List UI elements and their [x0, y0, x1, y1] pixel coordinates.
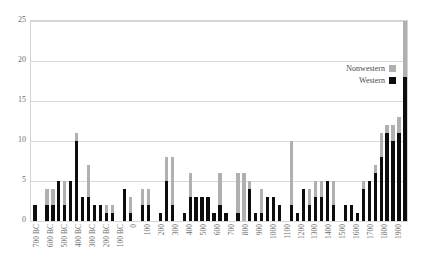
- bar: [93, 205, 96, 221]
- bar-segment-western: [99, 205, 102, 221]
- y-axis-tick-label: 0: [22, 216, 26, 224]
- bar-segment-nonwestern: [314, 181, 317, 197]
- legend-label: Nonwestern: [346, 64, 385, 73]
- bar-segment-western: [171, 205, 174, 221]
- legend-entry: Nonwestern: [346, 64, 396, 73]
- bar-segment-western: [272, 197, 275, 221]
- bar: [314, 181, 317, 221]
- legend-entry: Western: [359, 76, 396, 85]
- bar-segment-nonwestern: [165, 157, 168, 181]
- y-axis-tick-label: 10: [18, 136, 26, 144]
- bar-segment-western: [200, 197, 203, 221]
- bar: [111, 205, 114, 221]
- x-axis-tick-label: 1700: [367, 224, 375, 239]
- x-axis-tick-label: 200 BC: [103, 224, 111, 247]
- bar-segment-nonwestern: [51, 189, 54, 205]
- bar-segment-nonwestern: [391, 125, 394, 141]
- x-axis-tick-label: 100: [144, 224, 152, 235]
- bar: [45, 189, 48, 221]
- bar-segment-western: [224, 213, 227, 221]
- bar-segment-western: [248, 189, 251, 221]
- x-axis-tick-label: 1500: [339, 224, 347, 239]
- bar-segment-western: [326, 181, 329, 221]
- bar: [242, 173, 245, 221]
- bar-segment-western: [308, 205, 311, 221]
- bar: [57, 181, 60, 221]
- bar: [189, 173, 192, 221]
- bar: [254, 213, 257, 221]
- bar-segment-nonwestern: [385, 125, 388, 133]
- x-axis-tick-label: 500: [200, 224, 208, 235]
- bar: [320, 181, 323, 221]
- x-axis-tick-label: 600: [214, 224, 222, 235]
- bar: [272, 197, 275, 221]
- bar: [266, 197, 269, 221]
- bar: [374, 165, 377, 221]
- bar-segment-nonwestern: [248, 181, 251, 189]
- x-axis-tick-label: 100 BC: [117, 224, 125, 247]
- bar-segment-western: [212, 213, 215, 221]
- bar-segment-western: [105, 213, 108, 221]
- bar: [123, 189, 126, 221]
- legend-label: Western: [359, 76, 385, 85]
- bar-segment-western: [218, 205, 221, 221]
- bar: [224, 213, 227, 221]
- bar-segment-western: [296, 213, 299, 221]
- bar-segment-western: [254, 213, 257, 221]
- bar: [165, 157, 168, 221]
- stacked-bar-chart: 0510152025 700 BC600 BC500 BC400 BC300 B…: [0, 0, 432, 276]
- bar: [147, 189, 150, 221]
- bar-segment-nonwestern: [290, 141, 293, 205]
- bar-segment-nonwestern: [374, 165, 377, 173]
- bar-segment-nonwestern: [218, 173, 221, 205]
- x-axis-tick-label: 1400: [325, 224, 333, 239]
- bar: [99, 205, 102, 221]
- y-axis-tick-label: 5: [22, 176, 26, 184]
- bar-segment-western: [93, 205, 96, 221]
- bar-segment-nonwestern: [380, 133, 383, 157]
- bar-segment-western: [129, 213, 132, 221]
- bar-segment-western: [391, 141, 394, 221]
- legend-swatch-icon: [389, 77, 396, 84]
- x-axis-tick-label: 300 BC: [89, 224, 97, 247]
- bar: [385, 125, 388, 221]
- bar-segment-western: [87, 197, 90, 221]
- bar-segment-western: [302, 189, 305, 221]
- bar-segment-western: [63, 205, 66, 221]
- bar-segment-nonwestern: [129, 197, 132, 213]
- bar: [326, 181, 329, 221]
- bar-segment-western: [147, 205, 150, 221]
- bar: [278, 205, 281, 221]
- bar: [248, 181, 251, 221]
- bar-segment-western: [362, 189, 365, 221]
- bar-segment-western: [206, 197, 209, 221]
- bar-segment-nonwestern: [397, 117, 400, 133]
- bar: [183, 213, 186, 221]
- bar: [391, 125, 394, 221]
- bar-segment-nonwestern: [141, 189, 144, 205]
- bar-segment-western: [236, 213, 239, 221]
- bar-segment-nonwestern: [63, 181, 66, 205]
- bar-segment-nonwestern: [189, 173, 192, 197]
- x-axis-tick-label: 0: [130, 224, 138, 228]
- bar-segment-nonwestern: [147, 189, 150, 205]
- bar-segment-western: [403, 77, 406, 221]
- bar-segment-western: [397, 133, 400, 221]
- bar-segment-western: [141, 205, 144, 221]
- bar: [290, 141, 293, 221]
- bar-segment-western: [350, 205, 353, 221]
- bar-segment-western: [51, 205, 54, 221]
- chart-legend: NonwesternWestern: [346, 64, 396, 85]
- bar-segment-western: [385, 133, 388, 221]
- bar-segment-western: [374, 173, 377, 221]
- bar-segment-nonwestern: [308, 189, 311, 205]
- bar-segment-western: [183, 213, 186, 221]
- bar-segment-western: [344, 205, 347, 221]
- bar-segment-western: [290, 205, 293, 221]
- bar: [302, 189, 305, 221]
- x-axis-tick-label: 600 BC: [47, 224, 55, 247]
- y-axis-tick-label: 15: [18, 96, 26, 104]
- y-axis: 0510152025: [0, 0, 30, 224]
- plot-area: [30, 20, 408, 222]
- bar: [362, 181, 365, 221]
